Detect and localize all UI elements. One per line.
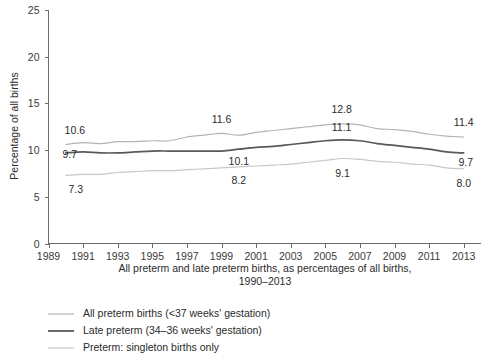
y-tick-label: 10 <box>28 144 40 156</box>
y-axis-ticks: 0510152025 <box>28 4 49 250</box>
x-tick-label: 2003 <box>279 250 303 262</box>
chart-container: 0510152025 Percentage of all births 1989… <box>0 0 493 358</box>
y-tick-label: 0 <box>34 238 40 250</box>
data-point-label: 9.7 <box>458 156 473 168</box>
x-axis-caption-line2: 1990–2013 <box>239 275 292 287</box>
x-tick-label: 1999 <box>210 250 234 262</box>
x-tick-label: 2013 <box>452 250 476 262</box>
x-tick-label: 1991 <box>71 250 95 262</box>
series-line-2 <box>66 158 464 175</box>
x-tick-label: 1997 <box>175 250 199 262</box>
legend-label-0: All preterm births (<37 weeks' gestation… <box>83 307 270 319</box>
x-axis-caption-line1: All preterm and late preterm births, as … <box>119 262 412 274</box>
y-axis-group: 0510152025 Percentage of all births <box>8 4 49 250</box>
x-tick-label: 2005 <box>314 250 338 262</box>
data-point-label: 10.6 <box>65 124 86 136</box>
legend: All preterm births (<37 weeks' gestation… <box>48 307 270 353</box>
line-chart: 0510152025 Percentage of all births 1989… <box>0 0 493 358</box>
x-axis-ticks: 1989199119931995199719992001200320052007… <box>37 244 476 262</box>
x-axis-group: 1989199119931995199719992001200320052007… <box>37 244 481 288</box>
legend-label-1: Late preterm (34–36 weeks' gestation) <box>83 324 262 336</box>
x-tick-label: 2011 <box>418 250 441 262</box>
data-point-label: 11.6 <box>212 113 232 125</box>
data-point-label: 7.3 <box>68 183 83 195</box>
data-point-label: 9.7 <box>62 148 77 160</box>
series-line-0 <box>66 124 464 145</box>
y-tick-label: 25 <box>28 4 40 16</box>
data-point-label: 12.8 <box>331 103 352 115</box>
x-tick-label: 1989 <box>37 250 61 262</box>
data-point-label: 11.4 <box>454 116 474 128</box>
data-labels: 10.611.612.811.49.710.111.19.77.38.29.18… <box>62 103 473 195</box>
x-tick-label: 1995 <box>141 250 165 262</box>
data-point-label: 10.1 <box>229 155 250 167</box>
data-point-label: 11.1 <box>332 121 352 133</box>
y-tick-label: 5 <box>34 191 40 203</box>
data-point-label: 9.1 <box>335 167 350 179</box>
x-tick-label: 2007 <box>348 250 372 262</box>
y-axis-title: Percentage of all births <box>8 72 20 179</box>
series-lines <box>66 124 464 175</box>
x-tick-label: 2001 <box>244 250 268 262</box>
x-tick-label: 1993 <box>106 250 130 262</box>
y-tick-label: 20 <box>28 51 40 63</box>
y-tick-label: 15 <box>28 97 40 109</box>
legend-label-2: Preterm: singleton births only <box>83 341 220 353</box>
data-point-label: 8.2 <box>231 174 246 186</box>
data-point-label: 8.0 <box>456 177 471 189</box>
x-tick-label: 2009 <box>383 250 407 262</box>
